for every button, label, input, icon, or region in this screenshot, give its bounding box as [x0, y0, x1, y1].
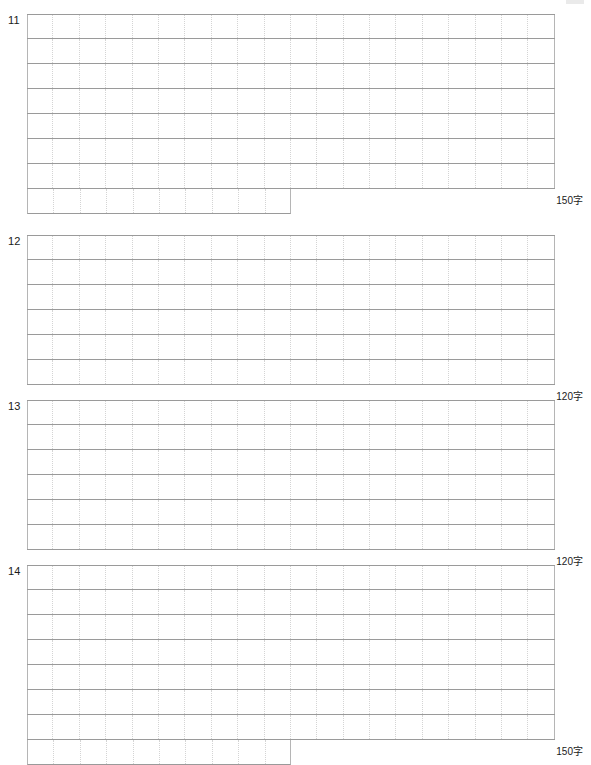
manuscript-cell[interactable] — [185, 260, 211, 284]
manuscript-cell[interactable] — [449, 475, 475, 499]
manuscript-cell[interactable] — [423, 139, 449, 163]
manuscript-cell[interactable] — [423, 114, 449, 138]
manuscript-row[interactable] — [27, 39, 555, 64]
manuscript-cell[interactable] — [185, 590, 211, 614]
manuscript-cell[interactable] — [80, 590, 106, 614]
manuscript-cell[interactable] — [133, 39, 159, 63]
manuscript-cell[interactable] — [317, 640, 343, 664]
manuscript-cell[interactable] — [212, 500, 238, 524]
manuscript-cell[interactable] — [502, 310, 528, 334]
manuscript-cell[interactable] — [160, 189, 186, 213]
manuscript-cell[interactable] — [528, 310, 554, 334]
manuscript-cell[interactable] — [396, 89, 422, 113]
manuscript-cell[interactable] — [159, 401, 185, 424]
manuscript-cell[interactable] — [80, 715, 106, 739]
manuscript-cell[interactable] — [159, 640, 185, 664]
manuscript-cell[interactable] — [159, 525, 185, 549]
manuscript-cell[interactable] — [53, 360, 79, 384]
manuscript-cell[interactable] — [291, 285, 317, 309]
manuscript-cell[interactable] — [80, 500, 106, 524]
manuscript-cell[interactable] — [238, 360, 264, 384]
manuscript-cell[interactable] — [396, 335, 422, 359]
manuscript-cell[interactable] — [159, 425, 185, 449]
manuscript-cell[interactable] — [133, 285, 159, 309]
manuscript-cell[interactable] — [27, 566, 53, 589]
manuscript-row[interactable] — [27, 690, 555, 715]
manuscript-cell[interactable] — [212, 260, 238, 284]
manuscript-cell[interactable] — [449, 525, 475, 549]
manuscript-cell[interactable] — [212, 139, 238, 163]
manuscript-cell[interactable] — [317, 475, 343, 499]
manuscript-cell[interactable] — [159, 39, 185, 63]
manuscript-row[interactable] — [27, 450, 555, 475]
manuscript-cell[interactable] — [317, 690, 343, 714]
manuscript-cell[interactable] — [265, 525, 291, 549]
manuscript-cell[interactable] — [423, 285, 449, 309]
manuscript-cell[interactable] — [344, 690, 370, 714]
manuscript-cell[interactable] — [265, 401, 291, 424]
manuscript-cell[interactable] — [159, 236, 185, 259]
manuscript-cell[interactable] — [317, 615, 343, 639]
manuscript-cell[interactable] — [449, 615, 475, 639]
manuscript-cell[interactable] — [502, 64, 528, 88]
manuscript-cell[interactable] — [317, 285, 343, 309]
manuscript-cell[interactable] — [344, 236, 370, 259]
manuscript-cell[interactable] — [423, 425, 449, 449]
manuscript-cell[interactable] — [291, 715, 317, 739]
manuscript-cell[interactable] — [238, 615, 264, 639]
manuscript-cell[interactable] — [449, 566, 475, 589]
manuscript-row[interactable] — [27, 615, 555, 640]
manuscript-cell[interactable] — [396, 39, 422, 63]
manuscript-cell[interactable] — [265, 475, 291, 499]
manuscript-cell[interactable] — [317, 89, 343, 113]
manuscript-row[interactable] — [27, 565, 555, 590]
manuscript-cell[interactable] — [344, 715, 370, 739]
manuscript-cell[interactable] — [53, 450, 79, 474]
manuscript-cell[interactable] — [291, 566, 317, 589]
manuscript-cell[interactable] — [159, 500, 185, 524]
manuscript-cell[interactable] — [291, 525, 317, 549]
manuscript-row[interactable] — [27, 360, 555, 385]
manuscript-cell[interactable] — [370, 139, 396, 163]
manuscript-cell[interactable] — [266, 189, 292, 213]
manuscript-cell[interactable] — [370, 590, 396, 614]
manuscript-cell[interactable] — [159, 690, 185, 714]
manuscript-cell[interactable] — [27, 64, 53, 88]
manuscript-cell[interactable] — [106, 335, 132, 359]
manuscript-cell[interactable] — [476, 236, 502, 259]
manuscript-cell[interactable] — [185, 39, 211, 63]
manuscript-cell[interactable] — [396, 566, 422, 589]
manuscript-cell[interactable] — [291, 690, 317, 714]
manuscript-cell[interactable] — [80, 566, 106, 589]
manuscript-cell[interactable] — [423, 64, 449, 88]
manuscript-cell[interactable] — [396, 401, 422, 424]
manuscript-cell[interactable] — [238, 500, 264, 524]
manuscript-cell[interactable] — [106, 139, 132, 163]
manuscript-cell[interactable] — [449, 335, 475, 359]
manuscript-cell[interactable] — [423, 15, 449, 38]
manuscript-cell[interactable] — [396, 665, 422, 689]
manuscript-cell[interactable] — [476, 690, 502, 714]
manuscript-cell[interactable] — [528, 475, 554, 499]
manuscript-cell[interactable] — [476, 475, 502, 499]
manuscript-grid[interactable] — [27, 400, 555, 550]
manuscript-cell[interactable] — [53, 260, 79, 284]
manuscript-cell[interactable] — [133, 64, 159, 88]
manuscript-cell[interactable] — [185, 475, 211, 499]
manuscript-cell[interactable] — [159, 139, 185, 163]
manuscript-cell[interactable] — [159, 360, 185, 384]
manuscript-cell[interactable] — [133, 335, 159, 359]
manuscript-cell[interactable] — [54, 189, 80, 213]
manuscript-cell[interactable] — [344, 15, 370, 38]
manuscript-cell[interactable] — [106, 114, 132, 138]
manuscript-cell[interactable] — [449, 401, 475, 424]
manuscript-cell[interactable] — [238, 39, 264, 63]
manuscript-cell[interactable] — [185, 310, 211, 334]
manuscript-cell[interactable] — [344, 39, 370, 63]
manuscript-cell[interactable] — [423, 360, 449, 384]
manuscript-cell[interactable] — [317, 450, 343, 474]
manuscript-cell[interactable] — [27, 450, 53, 474]
manuscript-cell[interactable] — [265, 590, 291, 614]
manuscript-cell[interactable] — [344, 590, 370, 614]
manuscript-cell[interactable] — [423, 89, 449, 113]
